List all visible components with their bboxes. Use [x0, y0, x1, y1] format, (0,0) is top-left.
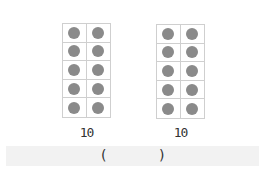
counter-dot-icon — [92, 83, 104, 95]
counter-dot-icon — [186, 84, 198, 96]
counter-dot-icon — [186, 28, 198, 40]
ten-frame-cell — [87, 80, 111, 99]
counter-dot-icon — [68, 83, 80, 95]
counter-dot-icon — [68, 27, 80, 39]
counter-dot-icon — [68, 45, 80, 57]
counter-dot-icon — [186, 46, 198, 58]
ten-frame-cell — [87, 43, 111, 62]
answer-close-paren: ) — [159, 147, 164, 163]
counter-dot-icon — [92, 64, 104, 76]
ten-frame-cell — [181, 44, 205, 63]
counter-dot-icon — [68, 102, 80, 114]
counter-dot-icon — [92, 27, 104, 39]
ten-frame-cell — [63, 61, 87, 80]
counter-dot-icon — [186, 103, 198, 115]
ten-frame-cell — [63, 24, 87, 43]
ten-frame-cell — [181, 25, 205, 44]
ten-frame-cell — [181, 99, 205, 118]
ten-frame-cell — [181, 81, 205, 100]
ten-frame-cell — [181, 62, 205, 81]
ten-frame-cell — [157, 81, 181, 100]
ten-frame-right-label: 10 — [156, 125, 205, 140]
ten-frame-cell — [63, 80, 87, 99]
counter-dot-icon — [186, 65, 198, 77]
counter-dot-icon — [162, 46, 174, 58]
counter-dot-icon — [92, 102, 104, 114]
ten-frame-left — [62, 23, 111, 118]
ten-frame-cell — [87, 61, 111, 80]
ten-frame-cell — [63, 43, 87, 62]
ten-frame-cell — [87, 98, 111, 117]
counter-dot-icon — [162, 84, 174, 96]
answer-band — [6, 146, 259, 166]
counter-dot-icon — [162, 65, 174, 77]
ten-frame-cell — [157, 99, 181, 118]
worksheet-card — [6, 10, 259, 168]
ten-frame-right — [156, 24, 205, 119]
counter-dot-icon — [162, 103, 174, 115]
answer-open-paren: ( — [101, 147, 106, 163]
ten-frame-cell — [87, 24, 111, 43]
counter-dot-icon — [162, 28, 174, 40]
ten-frame-cell — [157, 44, 181, 63]
ten-frame-cell — [157, 62, 181, 81]
ten-frame-cell — [157, 25, 181, 44]
counter-dot-icon — [92, 45, 104, 57]
ten-frame-left-label: 10 — [62, 125, 111, 140]
ten-frame-cell — [63, 98, 87, 117]
counter-dot-icon — [68, 64, 80, 76]
